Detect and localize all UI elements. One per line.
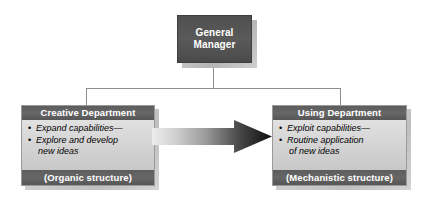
organization-flow-diagram: General Manager Creative Department Expa… [0,0,425,206]
using-department-footer: (Mechanistic structure) [273,170,406,185]
using-department-header: Using Department [273,106,406,120]
using-bullet-1-line1: Exploit capabilities— [287,123,370,133]
creative-department-body: Expand capabilities— Explore and develop… [22,120,154,170]
creative-department-box: Creative Department Expand capabilities—… [21,105,155,186]
manager-label-line1: General [196,27,234,38]
connector-horizontal-bar [86,88,341,89]
connector-right-branch [340,88,341,106]
using-bullet-list: Exploit capabilities— Routine applicatio… [279,123,401,157]
using-bullet-1: Exploit capabilities— [279,123,401,134]
general-manager-box: General Manager [177,15,252,63]
general-manager-label: General Manager [194,27,236,51]
creative-department-footer: (Organic structure) [22,170,154,185]
flow-arrow-icon [152,119,272,154]
creative-department-header: Creative Department [22,106,154,120]
manager-label-line2: Manager [194,39,236,50]
creative-bullet-2: Explore and develop new ideas [28,135,149,157]
creative-bullet-2-line1: Explore and develop [36,135,118,145]
connector-left-branch [86,88,87,106]
using-bullet-2-line1: Routine application [287,135,364,145]
using-bullet-2: Routine application of new ideas [279,135,401,157]
creative-bullet-1: Expand capabilities— [28,123,149,134]
creative-bullet-list: Expand capabilities— Explore and develop… [28,123,149,157]
using-department-box: Using Department Exploit capabilities— R… [272,105,407,186]
using-department-body: Exploit capabilities— Routine applicatio… [273,120,406,170]
creative-bullet-2-line2: new ideas [36,146,149,157]
creative-bullet-1-line1: Expand capabilities— [36,123,123,133]
using-bullet-2-line2: of new ideas [287,146,401,157]
